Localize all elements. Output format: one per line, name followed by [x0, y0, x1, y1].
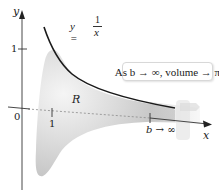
horn-end-arrow: [180, 103, 200, 111]
limit-label: b → ∞: [146, 125, 175, 135]
equation-denominator: x: [94, 26, 99, 38]
equation-lhs: y =: [70, 20, 77, 44]
x-axis-left: [8, 107, 30, 109]
y-axis-label: y: [13, 6, 19, 17]
origin-label: 0: [14, 112, 20, 122]
equation-numerator: 1: [95, 14, 100, 25]
x-tick-label: 1: [49, 119, 55, 129]
y-axis-arrow-icon: [19, 10, 25, 19]
y-tick-label: 1: [11, 44, 17, 54]
volume-callout: As b → ∞, volume → π: [122, 62, 213, 81]
region-label: R: [72, 94, 80, 105]
x-axis-arrow-icon: [203, 121, 212, 128]
x-axis-label: x: [203, 130, 209, 141]
horn-diagram: [0, 0, 219, 192]
callout-text: As b → ∞, volume → π: [115, 66, 219, 78]
